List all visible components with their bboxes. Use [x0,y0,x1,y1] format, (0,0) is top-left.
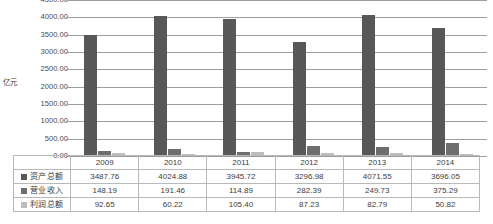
legend-label: 营业收入 [30,184,63,197]
table-cell: 114.89 [207,184,275,198]
table-cell: 191.46 [139,184,207,198]
legend-entry: 利润总额 [14,198,71,212]
table-cell: 105.40 [207,198,275,212]
legend-label: 资产总额 [30,170,63,183]
bar [154,16,167,156]
y-axis-tick-labels: 4500.004000.003500.003000.002500.002000.… [24,0,68,168]
table-year-header: 2013 [343,156,411,170]
table-cell: 148.19 [71,184,139,198]
bar [223,19,236,156]
table-cell: 50.82 [411,198,479,212]
y-tick-label: 4000.00 [41,14,68,22]
data-table-container: 200920102011201220132014资产总额3487.764024.… [13,155,480,212]
plot-area: 亿元 4500.004000.003500.003000.002500.0020… [0,0,493,168]
legend-swatch-icon [21,174,27,180]
y-axis-title: 亿元 [3,76,17,87]
table-year-header: 2014 [411,156,479,170]
data-table: 200920102011201220132014资产总额3487.764024.… [13,155,480,212]
legend-entry: 资产总额 [14,170,71,184]
table-cell: 82.79 [343,198,411,212]
y-tick-label: 2000.00 [41,83,68,91]
bar-group [348,0,418,156]
bar-chart-with-data-table: 亿元 4500.004000.003500.003000.002500.0020… [0,0,493,224]
legend-swatch-icon [21,202,27,208]
table-year-header: 2012 [275,156,343,170]
legend-swatch-icon [21,188,27,194]
table-year-header: 2010 [139,156,207,170]
y-tick-label: 1000.00 [41,118,68,126]
table-cell: 3696.05 [411,170,479,184]
table-cell: 4071.55 [343,170,411,184]
y-tick-label: 1500.00 [41,100,68,108]
bar [293,42,306,156]
table-cell: 375.29 [411,184,479,198]
table-cell: 60.22 [139,198,207,212]
bar-group [140,0,210,156]
bars-layer [70,0,487,156]
table-cell: 3487.76 [71,170,139,184]
y-tick-label: 3500.00 [41,31,68,39]
table-year-header: 2011 [207,156,275,170]
table-header-row: 200920102011201220132014 [14,156,480,170]
table-cell: 87.23 [275,198,343,212]
y-tick-label: 3000.00 [41,48,68,56]
y-tick-label: 2500.00 [41,66,68,74]
table-year-header: 2009 [71,156,139,170]
bar-group [209,0,279,156]
bar-group [279,0,349,156]
y-tick-label: 500.00 [45,135,68,143]
legend-label: 利润总额 [30,198,63,211]
legend-entry: 营业收入 [14,184,71,198]
table-cell: 3945.72 [207,170,275,184]
bar [362,15,375,156]
bar-group [70,0,140,156]
bar [84,35,97,156]
y-tick-label: 4500.00 [41,0,68,4]
table-corner-blank [14,156,71,170]
table-cell: 92.65 [71,198,139,212]
table-cell: 4024.88 [139,170,207,184]
bar [432,28,445,156]
table-row: 营业收入148.19191.46114.89282.39249.73375.29 [14,184,480,198]
table-cell: 249.73 [343,184,411,198]
table-cell: 282.39 [275,184,343,198]
table-cell: 3296.98 [275,170,343,184]
table-row: 利润总额92.6560.22105.4087.2382.7950.82 [14,198,480,212]
bar-group [418,0,488,156]
table-row: 资产总额3487.764024.883945.723296.984071.553… [14,170,480,184]
